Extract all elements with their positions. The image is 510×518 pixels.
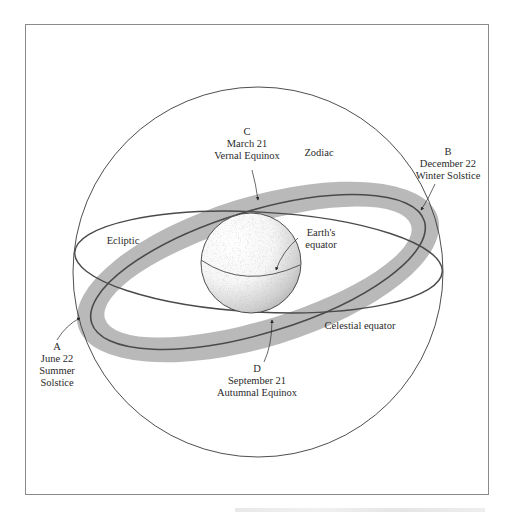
point-C-date: March 21 [227,138,268,149]
point-B-event: Winter Solstice [416,170,481,181]
point-A-event-line2: Solstice [40,377,74,388]
label-A: A June 22 Summer Solstice [39,341,75,388]
point-A-event-line1: Summer [39,365,75,376]
point-B-date: December 22 [420,158,476,169]
celestial-equator-label: Celestial equator [325,320,396,331]
celestial-sphere-diagram: C March 21 Vernal Equinox B December 22 … [0,0,510,518]
point-A-letter: A [53,341,61,352]
label-B: B December 22 Winter Solstice [416,146,481,181]
leader-A [57,318,80,340]
earths-equator-label-line1: Earth's [307,227,336,238]
label-C: C March 21 Vernal Equinox [214,126,280,161]
point-C-event: Vernal Equinox [214,150,280,161]
point-C-letter: C [243,126,250,137]
point-A-date: June 22 [41,353,73,364]
ecliptic-label: Ecliptic [107,235,140,246]
zodiac-label: Zodiac [304,147,333,158]
point-D-event: Autumnal Equinox [217,387,298,398]
point-D-letter: D [253,363,261,374]
earths-equator-label-line2: equator [305,239,337,250]
point-B-letter: B [444,146,451,157]
label-D: D September 21 Autumnal Equinox [217,363,298,398]
cropped-caption-line [235,508,485,512]
point-D-date: September 21 [228,375,286,386]
